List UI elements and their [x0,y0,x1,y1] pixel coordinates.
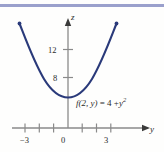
curve-equation-annotation: f(2, y) = 4 +y2 [76,96,126,108]
ytick-label-8: 8 [53,73,57,83]
vertical-axis-label: z [71,12,75,22]
vertical-axis [65,18,71,128]
curve-endpoint-left [18,22,22,26]
xtick-label-neg3: −3 [20,135,29,145]
equation-equals: = [100,98,105,108]
xtick-label-3: 3 [104,135,108,145]
equation-constant: 4 [107,98,112,108]
figure-container: z y 12 8 −3 0 3 f(2, y) = 4 +y2 [0,0,164,152]
origin-label: 0 [61,135,65,145]
plot-canvas [0,0,164,152]
ytick-label-12: 12 [48,45,57,55]
equation-exponent: 2 [123,96,126,103]
horizontal-axis [12,125,150,131]
horizontal-axis-label: y [150,124,154,134]
curve-endpoint-right [115,22,119,26]
equation-lhs: f(2, y) [76,98,98,108]
